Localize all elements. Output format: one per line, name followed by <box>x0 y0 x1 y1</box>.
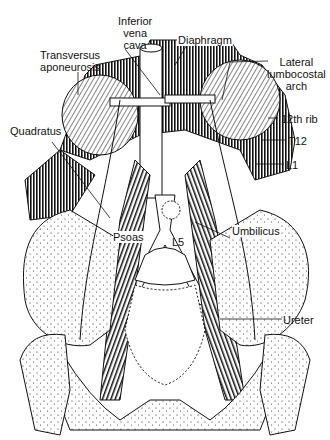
label-line: Lateral <box>267 56 326 68</box>
right-iliac <box>23 210 120 346</box>
left-femur <box>260 334 310 435</box>
l5-vertebra <box>135 248 195 286</box>
label-umbilicus: Umbilicus <box>232 225 280 237</box>
label-l5: L5 <box>172 236 184 248</box>
right-femur <box>20 334 70 435</box>
sacrum <box>125 285 205 385</box>
label-line: arch <box>267 80 326 92</box>
label-line: Transversus <box>40 49 100 61</box>
right-kidney-region <box>62 75 138 155</box>
label-t12: T12 <box>288 135 307 147</box>
umbilicus-marker <box>162 201 180 219</box>
label-inferior-vena-cava: Inferior vena cava <box>118 15 152 51</box>
label-line: cava <box>118 39 152 51</box>
label-line: aponeurosis <box>40 61 100 73</box>
label-lateral-lumbocostal-arch: Lateral lumbocostal arch <box>267 56 326 92</box>
label-line: lumbocostal <box>267 68 326 80</box>
label-quadratus: Quadratus <box>10 125 61 137</box>
label-line: vena <box>118 27 152 39</box>
label-diaphragm: Diaphragm <box>177 34 233 46</box>
label-12th-rib: 12th rib <box>281 113 318 125</box>
label-line: Inferior <box>118 15 152 27</box>
label-transversus-aponeurosis: Transversus aponeurosis <box>40 49 100 73</box>
label-ureter: Ureter <box>283 314 314 326</box>
label-l1: L1 <box>286 159 298 171</box>
label-psoas: Psoas <box>113 231 144 243</box>
